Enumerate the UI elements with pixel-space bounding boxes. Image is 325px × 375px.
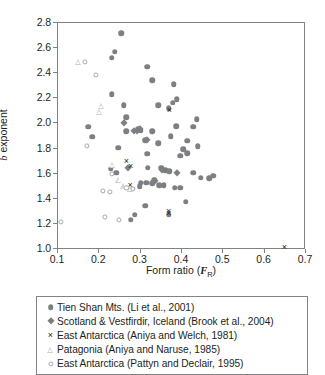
marker-diamond-filled — [173, 170, 180, 177]
legend-label: East Antarctica (Aniya and Welch, 1981) — [57, 330, 237, 341]
marker-cross-icon: × — [47, 332, 54, 339]
marker-circle-filled — [184, 138, 190, 144]
legend-marker — [44, 343, 57, 356]
marker-circle-filled — [177, 185, 183, 191]
legend-item[interactable]: ×East Antarctica (Aniya and Welch, 1981) — [37, 328, 307, 342]
marker-circle-filled — [109, 55, 115, 61]
marker-diamond-filled — [47, 318, 54, 325]
y-tick — [53, 47, 57, 48]
marker-circle-filled — [149, 128, 155, 134]
y-tick-label: 1.8 — [37, 142, 51, 154]
x-tick-label: 0.6 — [256, 253, 271, 265]
y-tick — [53, 122, 57, 123]
marker-circle-filled — [144, 151, 150, 157]
marker-circle-filled — [183, 199, 189, 205]
y-tick-label: 2.6 — [37, 41, 51, 53]
plot-frame-top — [57, 22, 305, 23]
marker-circle-filled — [168, 134, 174, 140]
legend-marker: × — [44, 329, 57, 342]
y-tick-label: 2.2 — [37, 91, 51, 103]
y-tick — [53, 223, 57, 224]
marker-circle-filled — [48, 304, 54, 310]
marker-cross-icon: × — [281, 243, 288, 250]
legend-marker — [44, 315, 57, 328]
marker-diamond-filled — [120, 119, 127, 126]
x-tick-label: 0.2 — [91, 253, 106, 265]
marker-circle-filled — [124, 128, 130, 134]
legend: Tien Shan Mts. (Li et al., 2001)Scotland… — [36, 296, 308, 375]
x-tick-label: 0.7 — [298, 253, 313, 265]
marker-triangle-open — [75, 59, 81, 65]
legend-label: East Antarctica (Pattyn and Declair, 199… — [57, 358, 243, 369]
marker-circle-filled — [137, 184, 143, 190]
marker-circle-open — [84, 144, 89, 149]
marker-circle-open — [116, 217, 121, 222]
marker-circle-open — [94, 72, 99, 77]
marker-circle-filled — [85, 124, 91, 130]
marker-circle-filled — [173, 123, 179, 129]
y-axis-title: b exponent — [0, 109, 9, 160]
y-tick — [53, 22, 57, 23]
marker-circle-filled — [198, 175, 204, 181]
marker-circle-filled — [115, 145, 121, 151]
y-tick — [53, 148, 57, 149]
marker-circle-filled — [89, 134, 95, 140]
marker-circle-filled — [142, 203, 148, 209]
marker-circle-open — [102, 215, 107, 220]
y-tick-label: 2.4 — [37, 66, 51, 78]
marker-circle-filled — [161, 182, 167, 188]
marker-circle-filled — [112, 49, 118, 55]
marker-circle-filled — [121, 103, 127, 109]
marker-circle-filled — [149, 78, 155, 84]
marker-triangle-open — [109, 162, 115, 168]
y-tick-label: 2.0 — [37, 116, 51, 128]
marker-circle-filled — [128, 217, 134, 223]
marker-circle-filled — [194, 117, 200, 123]
marker-circle-filled — [171, 81, 177, 87]
marker-circle-filled — [156, 140, 162, 146]
legend-item[interactable]: Scotland & Vestfirdir, Iceland (Brook et… — [37, 314, 307, 328]
legend-item[interactable]: Tien Shan Mts. (Li et al., 2001) — [37, 300, 307, 314]
y-tick-label: 2.8 — [37, 16, 51, 28]
legend-label: Scotland & Vestfirdir, Iceland (Brook et… — [57, 316, 274, 327]
legend-marker — [44, 301, 57, 314]
x-tick-label: 0.5 — [215, 253, 230, 265]
y-tick-label: 1.4 — [37, 192, 51, 204]
marker-circle-filled — [113, 170, 119, 176]
marker-circle-filled — [167, 169, 173, 175]
y-tick — [53, 97, 57, 98]
y-tick — [53, 198, 57, 199]
y-axis-line — [57, 22, 58, 248]
y-tick — [53, 72, 57, 73]
marker-circle-filled — [177, 153, 183, 159]
legend-label: Patagonia (Aniya and Naruse, 1985) — [57, 344, 220, 355]
marker-circle-filled — [184, 150, 190, 156]
marker-triangle-open — [97, 109, 103, 115]
marker-triangle-open — [48, 347, 54, 353]
marker-circle-filled — [145, 165, 151, 171]
marker-circle-filled — [144, 64, 150, 70]
marker-cross-icon: × — [166, 106, 173, 113]
marker-circle-filled — [191, 170, 197, 176]
marker-circle-filled — [156, 103, 162, 109]
marker-circle-filled — [144, 180, 150, 186]
marker-circle-open — [109, 171, 114, 176]
x-axis-title: Form ratio (FR) — [146, 264, 216, 279]
marker-circle-open — [107, 189, 112, 194]
x-tick-label: 0.3 — [132, 253, 147, 265]
marker-triangle-open — [116, 177, 122, 183]
legend-item[interactable]: Patagonia (Aniya and Naruse, 1985) — [37, 343, 307, 357]
marker-circle-filled — [109, 91, 115, 97]
legend-item[interactable]: East Antarctica (Pattyn and Declair, 199… — [37, 357, 307, 371]
marker-circle-filled — [191, 124, 197, 130]
x-tick-label: 0.1 — [50, 253, 65, 265]
marker-circle-open — [59, 219, 64, 224]
marker-circle-open — [48, 361, 53, 366]
marker-cross-icon: × — [127, 163, 134, 170]
legend-label: Tien Shan Mts. (Li et al., 2001) — [57, 302, 194, 313]
marker-circle-filled — [210, 173, 216, 179]
y-tick-label: 1.6 — [37, 167, 51, 179]
plot-frame-right — [304, 22, 305, 248]
y-tick — [53, 173, 57, 174]
